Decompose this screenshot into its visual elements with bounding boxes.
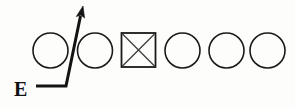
elbow-arrow-shaft [36,16,81,86]
diagram-svg: E [0,0,295,109]
node-circle-5 [209,33,244,68]
node-circle-2 [78,33,113,68]
diagram-canvas: E [0,0,295,109]
node-circle-1 [33,33,68,68]
pointer-label-E: E [14,78,27,100]
node-circle-4 [165,33,200,68]
node-circle-6 [250,33,285,68]
node-square-crossed-3 [122,33,156,67]
